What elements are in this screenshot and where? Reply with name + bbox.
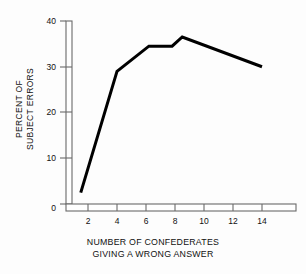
- y-tick-label-30: 30: [47, 62, 57, 72]
- chart-figure: 40 30 20 10 0 2 4 6 8 10 12 14 PERCENT O…: [0, 0, 306, 274]
- x-axis: [66, 204, 296, 211]
- x-axis-title: NUMBER OF CONFEDERATES GIVING A WRONG AN…: [0, 236, 306, 260]
- y-axis: [60, 21, 72, 204]
- x-tick-labels: 2 4 6 8 10 12 14: [86, 216, 267, 226]
- x-tick-label-2: 2: [86, 216, 91, 226]
- y-tick-label-0: 0: [51, 203, 56, 213]
- y-tick-label-40: 40: [47, 16, 57, 26]
- x-axis-title-line2: GIVING A WRONG ANSWER: [0, 248, 306, 260]
- y-axis-title-line1: PERCENT OF: [14, 80, 24, 138]
- y-tick-labels: 40 30 20 10 0: [47, 16, 57, 213]
- x-axis-title-line1: NUMBER OF CONFEDERATES: [0, 236, 306, 248]
- x-tick-label-8: 8: [173, 216, 178, 226]
- y-axis-title: PERCENT OF SUBJECT ERRORS: [10, 44, 40, 174]
- x-tick-label-4: 4: [115, 216, 120, 226]
- y-tick-label-20: 20: [47, 107, 57, 117]
- y-tick-label-10: 10: [47, 153, 57, 163]
- x-tick-label-6: 6: [144, 216, 149, 226]
- x-tick-label-12: 12: [228, 216, 238, 226]
- x-tick-label-10: 10: [199, 216, 209, 226]
- data-series-line: [81, 37, 262, 193]
- x-tick-label-14: 14: [257, 216, 267, 226]
- line-chart-plot: 40 30 20 10 0 2 4 6 8 10 12 14: [0, 0, 306, 274]
- y-axis-title-line2: SUBJECT ERRORS: [25, 68, 35, 150]
